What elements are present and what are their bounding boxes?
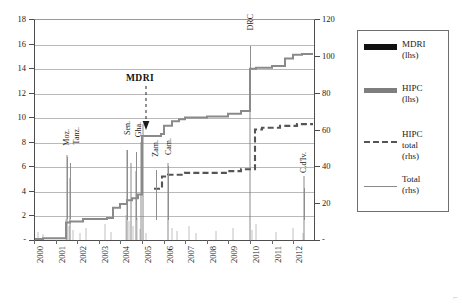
y-left-label-0: - (0, 235, 26, 244)
y-right-label-20: 20 (322, 199, 350, 208)
chart-legend: MDRI (lhs) HIPC (lhs) HIPC total (rhs) (357, 30, 449, 212)
tick-left-12 (29, 93, 34, 94)
country-stick-cam (168, 166, 169, 220)
tick-left-4 (29, 191, 34, 192)
legend-swatch-hipc-total-icon (364, 134, 397, 141)
legend-swatch-mdri-icon (364, 44, 397, 51)
legend-line-mdri-2: (lhs) (402, 50, 426, 61)
gridline-16 (35, 45, 314, 46)
corner-mark: ⌐ (453, 292, 458, 302)
x-label-2003: 2003 (101, 246, 110, 263)
country-label-sen: Sen. (124, 121, 132, 135)
tick-right-60 (315, 130, 320, 131)
country-stick-gha (136, 152, 137, 220)
x-label-2012: 2012 (295, 246, 304, 263)
x-label-2005: 2005 (144, 246, 153, 263)
legend-line-hipctotal-2: total (402, 140, 423, 151)
legend-text-total: Total (rhs) (402, 174, 420, 196)
x-label-2010: 2010 (252, 246, 261, 263)
y-left-label-4: 4 (0, 187, 26, 196)
country-label-cam: Cam. (165, 138, 173, 155)
country-stick-drc (250, 46, 251, 68)
tick-x-2010 (250, 240, 251, 244)
gridline-10 (35, 118, 314, 119)
tick-left-18 (29, 19, 34, 20)
legend-line-hipc-2: (lhs) (402, 94, 423, 105)
tick-right-100 (315, 56, 320, 57)
tick-x-2001 (56, 240, 57, 244)
legend-swatch-total-icon (364, 179, 397, 186)
y-left-label-16: 16 (0, 40, 26, 49)
legend-text-hipc-total: HIPC total (rhs) (402, 129, 423, 162)
country-label-zam: Zam. (152, 140, 160, 157)
y-left-label-10: 10 (0, 113, 26, 122)
legend-line-total-1: Total (402, 174, 420, 185)
y-left-label-12: 12 (0, 89, 26, 98)
tick-x-2006 (164, 240, 165, 244)
x-label-2002: 2002 (79, 246, 88, 263)
mdri-annotation-label: MDRI (126, 73, 154, 83)
tick-x-2004 (120, 240, 121, 244)
legend-line-hipctotal-1: HIPC (402, 129, 423, 140)
gridline-14 (35, 69, 314, 70)
country-label-gha: Gha. (135, 122, 143, 137)
y-right-label-40: 40 (322, 162, 350, 171)
tick-left-16 (29, 44, 34, 45)
tick-left-2 (29, 215, 34, 216)
x-axis-line (34, 240, 315, 241)
y-right-label-60: 60 (322, 126, 350, 135)
legend-item-hipc[interactable]: HIPC (lhs) (364, 83, 423, 105)
tick-right-20 (315, 203, 320, 204)
y-left-label-6: 6 (0, 162, 26, 171)
tick-x-2011 (272, 240, 273, 244)
country-label-moz: Moz. (63, 129, 71, 146)
x-label-2008: 2008 (209, 246, 218, 263)
tick-left-6 (29, 166, 34, 167)
tick-right-80 (315, 93, 320, 94)
x-label-2011: 2011 (274, 246, 283, 263)
legend-line-mdri-1: MDRI (402, 39, 426, 50)
x-label-2001: 2001 (58, 246, 67, 263)
tick-right-40 (315, 166, 320, 167)
tick-x-2002 (77, 240, 78, 244)
y-left-label-2: 2 (0, 211, 26, 220)
y-left-label-14: 14 (0, 64, 26, 73)
gridline-2 (35, 216, 314, 217)
legend-text-hipc: HIPC (lhs) (402, 83, 423, 105)
y-right-label-0: - (322, 235, 350, 244)
legend-line-hipc-1: HIPC (402, 83, 423, 94)
gridline-6 (35, 167, 314, 168)
x-label-2006: 2006 (166, 246, 175, 263)
tick-x-2008 (207, 240, 208, 244)
country-stick-tanz (70, 163, 71, 219)
legend-line-total-2: (rhs) (402, 185, 420, 196)
country-stick-moz (67, 157, 68, 219)
legend-swatch-hipc-icon (364, 88, 397, 95)
legend-item-hipc-total[interactable]: HIPC total (rhs) (364, 129, 423, 162)
gridline-4 (35, 192, 314, 193)
tick-right-120 (315, 19, 320, 20)
tick-x-2005 (142, 240, 143, 244)
tick-x-2000 (34, 240, 35, 244)
country-label-tanz: Tanz. (73, 127, 81, 144)
tick-x-2009 (228, 240, 229, 244)
country-stick-cdiv (304, 188, 305, 220)
x-label-2007: 2007 (187, 246, 196, 263)
tick-x-2003 (99, 240, 100, 244)
y-left-label-18: 18 (0, 15, 26, 24)
x-label-2000: 2000 (36, 246, 45, 263)
legend-line-hipctotal-3: (rhs) (402, 151, 423, 162)
tick-x-2012 (293, 240, 294, 244)
legend-item-total[interactable]: Total (rhs) (364, 174, 420, 196)
country-label-cdiv: C.d'Iv. (300, 152, 308, 173)
legend-text-mdri: MDRI (lhs) (402, 39, 426, 61)
y-right-label-100: 100 (322, 52, 350, 61)
legend-item-mdri[interactable]: MDRI (lhs) (364, 39, 426, 61)
chart-figure: 18 16 14 12 10 8 6 4 2 - 120 100 80 60 4… (0, 0, 462, 304)
tick-left-14 (29, 68, 34, 69)
y-right-label-80: 80 (322, 89, 350, 98)
x-label-2004: 2004 (122, 246, 131, 263)
country-stick-sen (127, 150, 128, 220)
gridline-12 (35, 94, 314, 95)
country-stick-zam (156, 170, 157, 220)
